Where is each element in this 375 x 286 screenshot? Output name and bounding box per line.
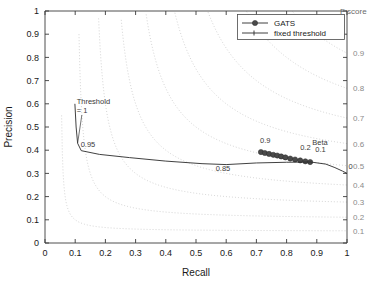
precision-recall-figure: 00.10.20.30.40.50.60.70.80.91 00.10.20.3… (0, 0, 375, 286)
f-score-label-0.2: 0.2 (353, 213, 365, 222)
f-score-label-0.5: 0.5 (353, 162, 365, 171)
y-tick-label-1: 1 (34, 6, 39, 16)
y-tick-label-0.3: 0.3 (26, 169, 39, 179)
annotation-0.9: 0.9 (260, 136, 270, 145)
annotation-0.2: 0.2 (300, 143, 310, 152)
x-axis-title: Recall (182, 267, 210, 278)
f-score-label-0.4: 0.4 (353, 181, 365, 190)
chart-legend[interactable]: GATS fixed threshold (238, 15, 345, 40)
x-tick-label-0: 0 (42, 248, 47, 258)
y-tick-label-0.4: 0.4 (26, 145, 39, 155)
legend-label-gats: GATS (274, 19, 295, 28)
x-tick-label-0.8: 0.8 (280, 248, 293, 258)
x-tick-label-0.6: 0.6 (220, 248, 233, 258)
x-tick-label-0.2: 0.2 (99, 248, 112, 258)
y-tick-label-0: 0 (34, 238, 39, 248)
f-score-label-0.8: 0.8 (353, 84, 365, 93)
f-score-label-0.1: 0.1 (353, 227, 365, 236)
chart-canvas: 00.10.20.30.40.50.60.70.80.91 00.10.20.3… (0, 0, 375, 286)
y-tick-label-0.8: 0.8 (26, 53, 39, 63)
y-tick-label-0.9: 0.9 (26, 29, 39, 39)
iso-f-contour-group (62, 11, 347, 230)
x-tick-label-0.7: 0.7 (250, 248, 263, 258)
legend-label-fixed-threshold: fixed threshold (274, 29, 326, 38)
x-tick-label-1: 1 (344, 248, 349, 258)
threshold-leader-line (78, 115, 82, 143)
data-point-marker (283, 155, 288, 160)
iso-f-contour-0.2 (79, 34, 347, 217)
y-axis-ticks: 00.10.20.30.40.50.60.70.80.91 (26, 6, 347, 248)
x-tick-label-0.1: 0.1 (69, 248, 82, 258)
annotation-0.85: 0.85 (216, 164, 231, 173)
data-point-marker (292, 157, 297, 162)
f-score-axis-labels: 0.90.80.70.60.50.40.30.20.1 (353, 49, 365, 236)
iso-f-contour-0.1 (62, 115, 347, 230)
f-score-label-0.7: 0.7 (353, 114, 365, 123)
y-tick-label-0.6: 0.6 (26, 99, 39, 109)
y-axis-title: Precision (3, 106, 14, 147)
data-point-marker (288, 156, 293, 161)
x-tick-label-0.5: 0.5 (190, 248, 203, 258)
annotation-0: 0 (349, 162, 353, 171)
f-score-label-0.3: 0.3 (353, 198, 365, 207)
y-tick-label-0.7: 0.7 (26, 76, 39, 86)
f-score-label-0.9: 0.9 (353, 49, 365, 58)
f-score-label-0.6: 0.6 (353, 140, 365, 149)
annotation-0.1: 0.1 (315, 145, 325, 154)
data-series-layer (75, 104, 347, 174)
annotation-0.95: 0.95 (81, 140, 96, 149)
data-point-marker (303, 159, 308, 164)
x-axis-ticks: 00.10.20.30.40.50.60.70.80.91 (42, 11, 349, 258)
x-tick-label-0.3: 0.3 (129, 248, 142, 258)
annotation-=-1: = 1 (77, 106, 88, 115)
y-tick-label-0.1: 0.1 (26, 215, 39, 225)
iso-f-contour-0.3 (99, 18, 347, 202)
legend-marker-gats (252, 20, 257, 25)
x-tick-label-0.4: 0.4 (160, 248, 173, 258)
y-tick-label-0.2: 0.2 (26, 192, 39, 202)
annotation-threshold: Threshold (77, 97, 110, 106)
y-tick-label-0.5: 0.5 (26, 122, 39, 132)
x-tick-label-0.9: 0.9 (311, 248, 324, 258)
